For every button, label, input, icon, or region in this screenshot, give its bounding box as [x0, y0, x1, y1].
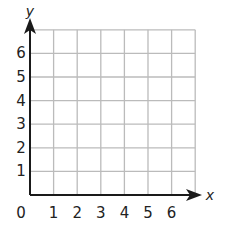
y-tick-labels: 123456	[16, 44, 26, 180]
origin-label: 0	[16, 204, 26, 222]
y-tick-label: 4	[16, 92, 26, 110]
x-axis-label: x	[205, 187, 215, 203]
y-tick-label: 2	[16, 139, 26, 157]
x-tick-label: 4	[120, 204, 130, 222]
y-axis-label: y	[25, 3, 35, 19]
y-tick-label: 1	[16, 162, 26, 180]
x-tick-label: 3	[96, 204, 106, 222]
coordinate-grid: y x 0 123456 123456	[0, 0, 237, 241]
x-tick-labels: 123456	[49, 204, 177, 222]
grid-lines	[30, 30, 195, 195]
axes	[24, 18, 202, 201]
x-tick-label: 6	[167, 204, 177, 222]
x-tick-label: 1	[49, 204, 59, 222]
x-tick-label: 2	[72, 204, 82, 222]
x-tick-label: 5	[143, 204, 153, 222]
y-tick-label: 6	[16, 44, 26, 62]
y-tick-label: 5	[16, 68, 26, 86]
y-tick-label: 3	[16, 115, 26, 133]
